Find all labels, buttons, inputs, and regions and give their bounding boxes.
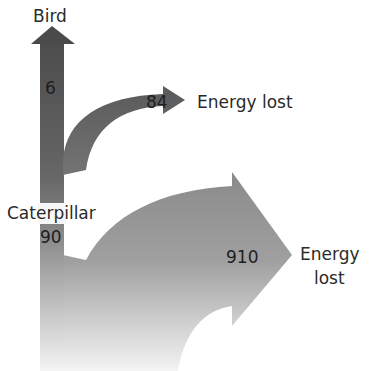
large-loss-label-line2: lost xyxy=(314,268,345,288)
large-loss-arrow xyxy=(40,172,292,371)
caterpillar-value: 90 xyxy=(40,227,62,247)
caterpillar-label: Caterpillar xyxy=(7,203,96,223)
bird-label: Bird xyxy=(33,6,67,26)
large-loss-label-line1: Energy xyxy=(300,244,360,264)
small-loss-value: 84 xyxy=(146,92,168,112)
energy-flow-diagram xyxy=(0,0,369,371)
bird-value: 6 xyxy=(45,78,56,98)
bird-arrowhead xyxy=(31,26,75,44)
small-loss-label: Energy lost xyxy=(197,92,293,112)
large-loss-value: 910 xyxy=(226,247,258,267)
